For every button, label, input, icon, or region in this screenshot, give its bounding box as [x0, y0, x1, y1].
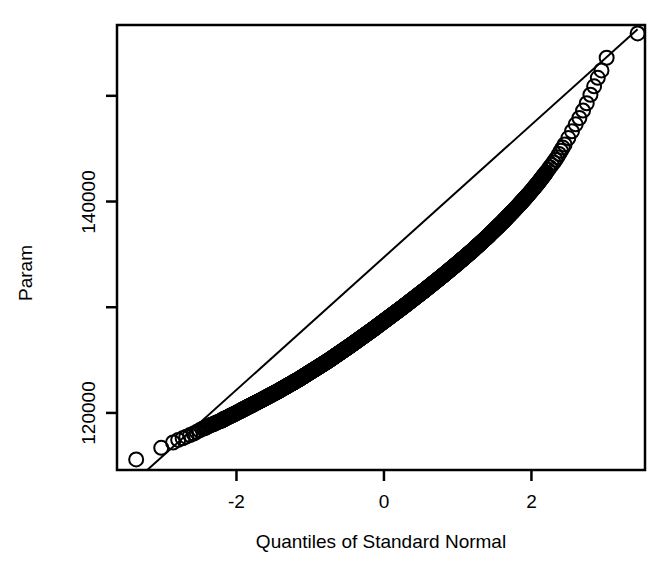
qq-plot-figure: -202 140000120000 Quantiles of Standard …	[0, 0, 662, 581]
data-point	[587, 79, 601, 93]
data-point	[583, 88, 597, 102]
y-axis-tick-label: 120000	[78, 381, 100, 444]
x-axis-title: Quantiles of Standard Normal	[256, 531, 506, 553]
y-axis-title: Param	[15, 245, 37, 301]
x-axis-tick-label: -2	[228, 491, 245, 513]
y-axis-ticks	[106, 96, 117, 413]
data-point	[129, 452, 143, 466]
plot-canvas	[0, 0, 662, 581]
qq-reference-line	[147, 29, 637, 470]
reference-line-layer	[147, 29, 637, 470]
plot-frame-border	[117, 25, 645, 470]
y-axis-tick-label: 140000	[78, 170, 100, 233]
plot-frame	[117, 25, 645, 470]
x-axis-tick-label: 0	[379, 491, 390, 513]
x-axis-ticks	[236, 470, 531, 481]
x-axis-tick-label: 2	[526, 491, 537, 513]
